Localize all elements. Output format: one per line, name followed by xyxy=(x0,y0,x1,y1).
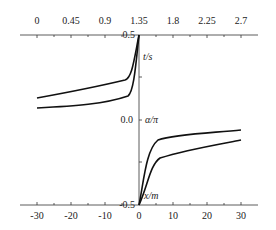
top-tick-4: 1.8 xyxy=(167,15,180,26)
chart: 0 0.45 0.9 1.35 1.8 2.25 2.7 -30 -20 -10… xyxy=(0,0,276,230)
t-axis-label: t/s xyxy=(143,51,153,62)
vertical-axis-ticks xyxy=(139,77,142,162)
v-tick-mid: 0.0 xyxy=(121,114,134,125)
v-tick-top: 0.5 xyxy=(123,29,136,40)
curve-left-upper xyxy=(37,35,139,98)
top-tick-3: 1.35 xyxy=(130,15,148,26)
bottom-tick-5: 20 xyxy=(202,210,212,221)
bottom-tick-2: -10 xyxy=(98,210,111,221)
x-axis-label: x/m xyxy=(143,190,158,201)
bottom-tick-4: 10 xyxy=(168,210,178,221)
v-tick-bot: -0.5 xyxy=(119,199,135,210)
bottom-tick-0: -30 xyxy=(30,210,43,221)
bottom-tick-1: -20 xyxy=(64,210,77,221)
bottom-tick-6: 30 xyxy=(236,210,246,221)
top-tick-1: 0.45 xyxy=(62,15,80,26)
top-tick-0: 0 xyxy=(35,15,40,26)
alpha-axis-label: α/π xyxy=(145,114,159,125)
top-tick-5: 2.25 xyxy=(198,15,216,26)
curve-left-lower xyxy=(37,35,139,108)
bottom-tick-3: 0 xyxy=(137,210,142,221)
top-tick-6: 2.7 xyxy=(235,15,248,26)
top-tick-2: 0.9 xyxy=(99,15,112,26)
